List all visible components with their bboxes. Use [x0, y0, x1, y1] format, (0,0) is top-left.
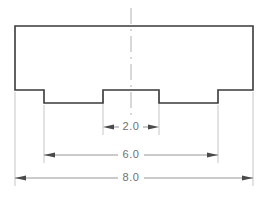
technical-drawing-canvas: 2.0 6.0 8.0 — [0, 0, 271, 200]
drawing-background — [0, 0, 271, 200]
dimension-label-6-0: 6.0 — [123, 148, 140, 160]
engineering-drawing-svg: 2.0 6.0 8.0 — [0, 0, 271, 200]
dimension-label-8-0: 8.0 — [123, 171, 140, 183]
dimension-label-2-0: 2.0 — [123, 120, 140, 132]
